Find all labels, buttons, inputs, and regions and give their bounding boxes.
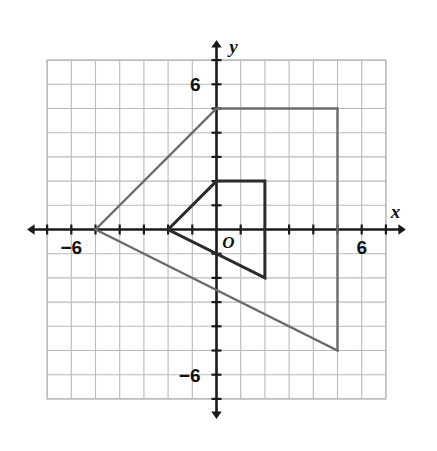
y-tick-label-6: 6 — [190, 74, 201, 95]
coordinate-plane-figure: xyO−666−6 — [0, 0, 437, 451]
coordinate-plane-svg: xyO−666−6 — [0, 0, 437, 451]
y-tick-label--6: −6 — [179, 365, 201, 386]
origin-label: O — [222, 233, 234, 252]
x-axis-label: x — [390, 201, 401, 222]
figure-background — [0, 0, 437, 451]
x-tick-label--6: −6 — [60, 237, 82, 258]
x-tick-label-6: 6 — [356, 237, 367, 258]
y-axis-label: y — [227, 36, 238, 57]
